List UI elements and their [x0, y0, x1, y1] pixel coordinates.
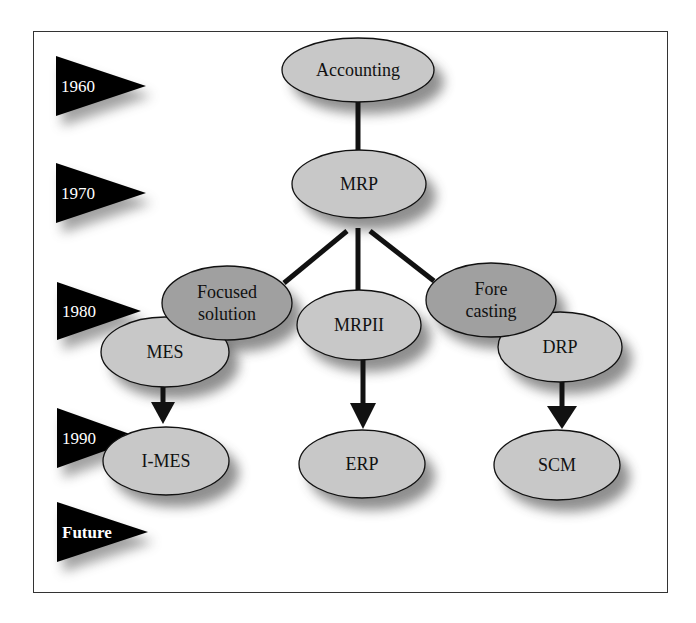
node-label: solution: [198, 304, 256, 324]
node-scm: SCM: [494, 430, 620, 500]
node-accounting: Accounting: [282, 38, 434, 102]
node-erp: ERP: [299, 430, 425, 498]
node-label: ERP: [345, 454, 378, 474]
timeline-label: 1970: [61, 184, 95, 203]
node-mrpii: MRPII: [297, 290, 421, 360]
timeline-label: Future: [62, 523, 112, 542]
connector-mrp-to-focused-solution: [284, 231, 347, 283]
timeline-label: 1980: [62, 302, 96, 321]
arrow-head-icon: [547, 406, 577, 429]
node-label: Accounting: [316, 60, 400, 80]
node-label: MES: [146, 342, 183, 362]
timeline-label: 1960: [61, 77, 95, 96]
node-focused-solution: Focusedsolution: [162, 266, 292, 340]
node-label: casting: [466, 301, 517, 321]
node-i-mes: I-MES: [103, 427, 229, 495]
evolution-diagram: 1960197019801990Future DRPAccountingMRPM…: [0, 0, 696, 623]
node-label: Fore: [475, 279, 508, 299]
arrow-head-icon: [151, 402, 175, 424]
node-label: MRPII: [334, 315, 384, 335]
node-ellipse: [426, 263, 556, 337]
timeline-label: 1990: [62, 429, 96, 448]
node-forecasting: Forecasting: [426, 263, 556, 337]
node-label: MRP: [340, 174, 378, 194]
arrow-head-icon: [350, 403, 376, 429]
node-label: Focused: [197, 282, 257, 302]
node-ellipse: [162, 266, 292, 340]
node-label: SCM: [538, 455, 576, 475]
connector-mrp-to-forecasting: [370, 231, 434, 281]
node-mrp: MRP: [292, 150, 426, 218]
node-label: I-MES: [142, 451, 191, 471]
node-label: DRP: [542, 337, 577, 357]
